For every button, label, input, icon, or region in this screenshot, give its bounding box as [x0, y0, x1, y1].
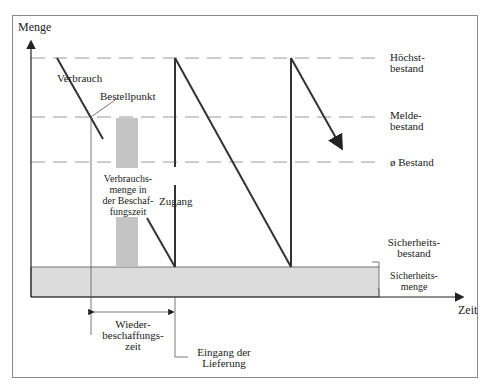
max-level-label: Höchst-bestand: [390, 52, 425, 74]
y-axis-label: Menge: [18, 22, 51, 33]
lead-time-label: Wieder-beschaffungs-zeit: [100, 319, 166, 352]
consumption-lead-label: Verbrauchs-menge inder Beschaf-fungszeit: [100, 173, 156, 217]
delivery-label: Eingang derLieferung: [190, 347, 258, 369]
safety-band: [31, 267, 379, 297]
consumption-bar-top: [116, 118, 138, 168]
reorder-point-label: Bestellpunkt: [100, 91, 156, 102]
safety-quantity-label: Sicherheits-menge: [382, 270, 446, 292]
consumption-label: Verbrauch: [57, 73, 102, 84]
safety-level-label: Sicherheits-bestand: [382, 237, 446, 259]
receipt-label: Zugang: [159, 196, 193, 207]
consumption-bar-bottom: [116, 217, 138, 267]
avg-level-label: ø Bestand: [390, 157, 434, 168]
reorder-level-label: Melde-bestand: [390, 110, 424, 132]
x-axis-label: Zeit: [458, 305, 477, 316]
